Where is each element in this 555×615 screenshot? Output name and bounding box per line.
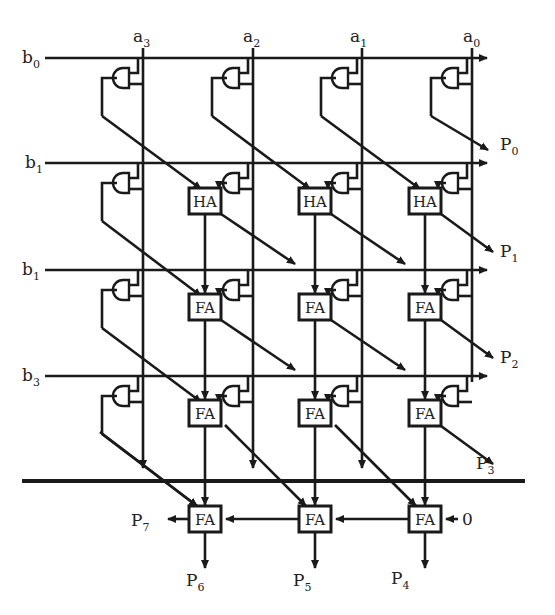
adder-label: FA xyxy=(415,299,435,317)
b3-label: b3 xyxy=(22,365,40,389)
p7-label: P7 xyxy=(131,510,149,534)
and-gate-icon xyxy=(438,163,472,193)
p6-label: P6 xyxy=(186,570,204,594)
adder-label: HA xyxy=(193,193,217,211)
and-gates xyxy=(102,58,472,434)
adder-label: FA xyxy=(415,511,435,529)
and-gate-icon xyxy=(102,270,143,328)
wire xyxy=(225,425,306,506)
final-fa-2: FA xyxy=(409,506,441,532)
wire xyxy=(335,425,416,506)
adder-label: HA xyxy=(303,193,327,211)
and-gate-icon xyxy=(438,270,472,300)
adder-grid: HAHAHAFAFAFAFAFAFA xyxy=(189,188,493,464)
adder-label: HA xyxy=(413,193,437,211)
adder-label: FA xyxy=(415,405,435,423)
wire xyxy=(100,432,197,506)
adder-label: FA xyxy=(305,299,325,317)
and-gate-icon xyxy=(438,376,472,406)
p5-label: P5 xyxy=(293,570,311,594)
and-gate-icon xyxy=(102,163,143,221)
and-gate-icon xyxy=(219,376,253,406)
b-lines xyxy=(45,58,487,376)
a-labels: a3 a2 a1 a0 xyxy=(133,26,480,50)
adder-box: FA xyxy=(299,321,331,426)
and-gate-icon xyxy=(321,58,362,116)
array-multiplier-diagram: HAHAHAFAFAFAFAFAFA FA FA FA a3 a2 xyxy=(0,0,555,615)
and-gate-icon xyxy=(219,270,253,300)
final-adder-row: FA FA FA xyxy=(100,425,458,568)
b0-label: b0 xyxy=(22,47,40,71)
final-fa-1: FA xyxy=(299,506,331,532)
adder-label: FA xyxy=(195,511,215,529)
p0-label: P0 xyxy=(500,134,518,158)
final-fa-0: FA xyxy=(189,506,221,532)
and-gate-icon xyxy=(219,163,253,193)
and-gate-icon xyxy=(102,58,143,116)
and-gate-icon xyxy=(102,376,143,434)
p1-label: P1 xyxy=(500,241,518,265)
carry-in-label: 0 xyxy=(462,509,473,529)
a0-label: a0 xyxy=(463,26,480,50)
b1-label: b1 xyxy=(25,152,43,176)
b2-label: b1 xyxy=(22,259,40,283)
and-gate-icon xyxy=(212,58,253,116)
right-output-labels: P0 P1 P2 P3 xyxy=(476,134,518,477)
and-gate-icon xyxy=(328,270,362,300)
p3-label: P3 xyxy=(476,453,494,477)
b-labels: b0 b1 b1 b3 xyxy=(22,47,43,389)
a1-label: a1 xyxy=(350,26,367,50)
and-gate-icon xyxy=(328,376,362,406)
p4-label: P4 xyxy=(391,568,409,592)
a2-label: a2 xyxy=(243,26,260,50)
p2-label: P2 xyxy=(500,347,518,371)
adder-label: FA xyxy=(305,511,325,529)
adder-label: FA xyxy=(195,299,215,317)
wire xyxy=(431,116,488,150)
a3-label: a3 xyxy=(133,26,150,50)
adder-box: HA xyxy=(409,188,493,252)
adder-label: FA xyxy=(305,405,325,423)
and-gate-icon xyxy=(328,163,362,193)
and-gate-icon xyxy=(431,58,472,116)
adder-label: FA xyxy=(195,405,215,423)
adder-box: FA xyxy=(189,321,221,426)
